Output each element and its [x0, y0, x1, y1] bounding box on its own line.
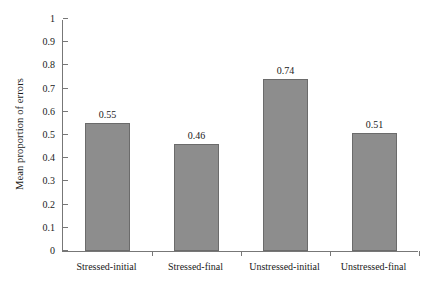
y-tick-label: 0.2 [25, 197, 55, 213]
x-axis-label: Unstressed-final [314, 260, 434, 274]
y-tick-label: 0.3 [25, 173, 55, 189]
y-tick-mark [63, 64, 68, 65]
y-tick-label: 0.6 [25, 104, 55, 120]
y-tick-mark [63, 88, 68, 89]
y-tick-mark [63, 250, 68, 251]
bar: 0.74 [263, 79, 308, 251]
x-tick-mark [419, 251, 420, 256]
y-tick-mark [63, 111, 68, 112]
y-tick-label: 1 [25, 11, 55, 27]
y-tick-mark [63, 157, 68, 158]
y-tick-mark [63, 18, 68, 19]
y-tick-mark [63, 180, 68, 181]
y-tick-mark [63, 227, 68, 228]
bar-chart: Mean proportion of errors 00.10.20.30.40… [0, 0, 436, 283]
y-tick-label: 0.7 [25, 81, 55, 97]
y-tick-mark [63, 41, 68, 42]
bar-value-label: 0.51 [366, 119, 384, 131]
bar: 0.55 [85, 123, 130, 251]
y-tick-label: 0.8 [25, 57, 55, 73]
bar-value-label: 0.55 [99, 109, 117, 121]
y-tick-mark [63, 134, 68, 135]
y-tick-label: 0.1 [25, 220, 55, 236]
bar-value-label: 0.74 [277, 65, 295, 77]
x-tick-mark [330, 251, 331, 256]
x-tick-mark [152, 251, 153, 256]
y-tick-label: 0 [25, 243, 55, 259]
y-tick-mark [63, 204, 68, 205]
y-tick-label: 0.4 [25, 150, 55, 166]
bar: 0.46 [174, 144, 219, 251]
y-tick-label: 0.9 [25, 34, 55, 50]
x-tick-mark [241, 251, 242, 256]
y-tick-label: 0.5 [25, 127, 55, 143]
bar: 0.51 [352, 133, 397, 251]
plot-area: 00.10.20.30.40.50.60.70.80.91 0.550.460.… [62, 20, 418, 252]
bar-value-label: 0.46 [188, 130, 206, 142]
